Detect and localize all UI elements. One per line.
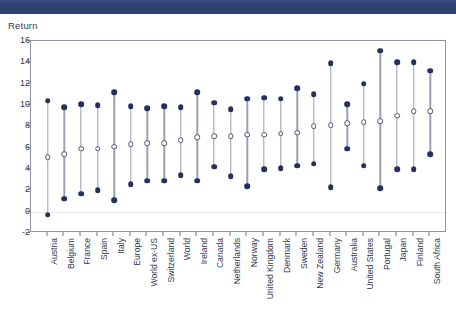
- x-axis-label: Spain: [100, 238, 109, 260]
- x-tick-mark: [329, 232, 330, 236]
- y-tick-marks: [30, 40, 446, 232]
- x-tick-mark: [179, 232, 180, 236]
- x-axis-labels: AustriaBelgiumFranceSpainItalyEuropeWorl…: [30, 238, 446, 334]
- x-tick-mark: [429, 232, 430, 236]
- x-axis-label: Portugal: [383, 238, 392, 270]
- x-tick-mark: [129, 232, 130, 236]
- y-tick-mark: [26, 147, 30, 148]
- x-tick-mark: [63, 232, 64, 236]
- x-tick-mark: [396, 232, 397, 236]
- x-axis-label: Canada: [216, 238, 225, 268]
- x-axis-label: Switzerland: [167, 238, 176, 282]
- x-tick-mark: [312, 232, 313, 236]
- x-tick-mark: [196, 232, 197, 236]
- x-tick-mark: [146, 232, 147, 236]
- x-axis-label: Japan: [399, 238, 408, 261]
- x-axis-label: New Zealand: [316, 238, 325, 289]
- x-tick-mark: [163, 232, 164, 236]
- x-tick-marks: [30, 232, 446, 237]
- x-tick-mark: [296, 232, 297, 236]
- x-axis-label: Finland: [416, 238, 425, 266]
- x-tick-mark: [246, 232, 247, 236]
- y-axis-labels: -20246810121416: [0, 40, 30, 232]
- x-tick-mark: [346, 232, 347, 236]
- y-tick-mark: [26, 61, 30, 62]
- x-tick-mark: [279, 232, 280, 236]
- y-axis-title: Return: [8, 20, 38, 31]
- x-axis-label: Austria: [50, 238, 59, 265]
- x-axis-label: Netherlands: [233, 238, 242, 284]
- y-tick-mark: [26, 211, 30, 212]
- x-tick-mark: [262, 232, 263, 236]
- x-axis-label: World ex-US: [150, 238, 159, 287]
- x-axis-label: Norway: [250, 238, 259, 267]
- x-axis-label: Italy: [117, 238, 126, 254]
- y-tick-mark: [26, 83, 30, 84]
- x-axis-label: United States: [366, 238, 375, 290]
- x-tick-mark: [213, 232, 214, 236]
- x-tick-mark: [46, 232, 47, 236]
- x-tick-mark: [79, 232, 80, 236]
- x-tick-mark: [96, 232, 97, 236]
- y-tick-mark: [26, 168, 30, 169]
- x-axis-label: Germany: [333, 238, 342, 273]
- x-axis-label: Europe: [133, 238, 142, 266]
- top-header-bar: [0, 0, 456, 14]
- y-tick-mark: [26, 40, 30, 41]
- x-axis-label: World: [183, 238, 192, 260]
- y-tick-mark: [26, 189, 30, 190]
- x-tick-mark: [379, 232, 380, 236]
- x-axis-label: Denmark: [283, 238, 292, 273]
- x-axis-label: South Africa: [433, 238, 442, 284]
- y-tick-mark: [26, 104, 30, 105]
- x-tick-mark: [113, 232, 114, 236]
- header-gradient: [0, 0, 456, 4]
- chart-container: Return -20246810121416 AustriaBelgiumFra…: [0, 14, 456, 334]
- x-tick-mark: [229, 232, 230, 236]
- x-axis-label: United Kingdom: [266, 238, 275, 299]
- x-tick-mark: [412, 232, 413, 236]
- x-axis-label: Belgium: [67, 238, 76, 269]
- x-axis-label: Sweden: [300, 238, 309, 269]
- x-axis-label: Ireland: [200, 238, 209, 264]
- x-tick-mark: [362, 232, 363, 236]
- x-axis-label: France: [83, 238, 92, 265]
- y-tick-mark: [26, 125, 30, 126]
- x-axis-label: Australia: [350, 238, 359, 271]
